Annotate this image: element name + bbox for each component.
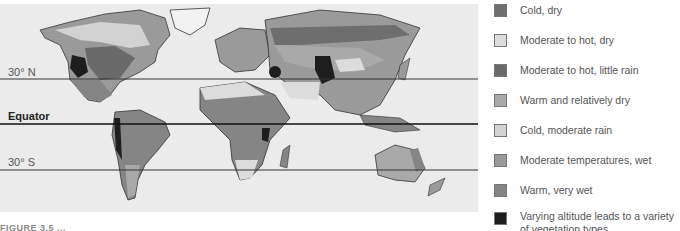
legend-item-moderate-hot-little-rain: Moderate to hot, little rain [494, 64, 638, 77]
legend-label: Moderate temperatures, wet [520, 154, 651, 167]
label-equator: Equator [8, 110, 50, 122]
swatch-varying-altitude [494, 212, 507, 225]
legend-item-warm-very-wet: Warm, very wet [494, 184, 593, 197]
legend-item-cold-moderate-rain: Cold, moderate rain [494, 124, 612, 137]
legend-label: Varying altitude leads to a variety of v… [520, 210, 680, 231]
legend-item-cold-dry: Cold, dry [494, 4, 562, 17]
continents-graphic [0, 4, 478, 212]
legend-label: Cold, moderate rain [520, 124, 612, 137]
legend-label: Cold, dry [520, 4, 562, 17]
europe [215, 28, 270, 72]
legend-item-moderate-hot-dry: Moderate to hot, dry [494, 34, 614, 47]
greenland [170, 8, 210, 35]
swatch-warm-very-wet [494, 184, 507, 197]
legend-item-moderate-temperatures-wet: Moderate temperatures, wet [494, 154, 651, 167]
legend-label: Moderate to hot, little rain [520, 64, 638, 77]
swatch-cold-moderate-rain [494, 124, 507, 137]
swatch-moderate-temperatures-wet [494, 154, 507, 167]
figure-caption: FIGURE 3.5 ... [0, 223, 66, 231]
legend-label: Moderate to hot, dry [520, 34, 614, 47]
swatch-cold-dry [494, 4, 507, 17]
label-30-north: 30° N [8, 66, 36, 78]
swatch-moderate-hot-dry [494, 34, 507, 47]
legend-label: Warm and relatively dry [520, 94, 630, 107]
legend-item-warm-relatively-dry: Warm and relatively dry [494, 94, 630, 107]
legend-item-varying-altitude: Varying altitude leads to a variety of v… [494, 212, 680, 231]
swatch-warm-relatively-dry [494, 94, 507, 107]
world-climate-map [0, 4, 478, 212]
swatch-moderate-hot-little-rain [494, 64, 507, 77]
legend-label: Warm, very wet [520, 184, 593, 197]
label-30-south: 30° S [8, 156, 35, 168]
